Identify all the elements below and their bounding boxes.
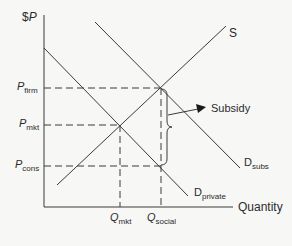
q-social-label: Qsocial — [147, 212, 176, 226]
p-cons-label: Pcons — [15, 159, 39, 173]
x-axis-label: Quantity — [238, 201, 283, 213]
q-mkt-label: Qmkt — [110, 212, 131, 226]
demand-private-curve — [44, 48, 188, 196]
y-axis-label: $P — [22, 11, 37, 23]
subsidy-brace — [161, 89, 172, 165]
p-mkt-label: Pmkt — [19, 118, 39, 132]
subsidy-label: Subsidy — [211, 103, 250, 114]
demand-private-label: Dprivate — [194, 187, 226, 201]
arrowhead-icon — [196, 104, 206, 113]
demand-subs-label: Dsubs — [244, 157, 269, 171]
supply-label: S — [229, 27, 237, 39]
p-firm-label: Pfirm — [17, 81, 38, 95]
